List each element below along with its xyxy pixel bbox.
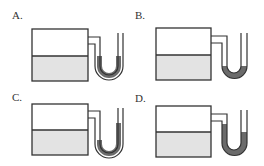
manometer-liquid-b: [222, 66, 247, 79]
water-a: [32, 56, 88, 81]
water-c: [32, 130, 88, 155]
pipe-a: [88, 37, 100, 53]
pipe-d: [211, 114, 227, 124]
option-b-apparatus: [156, 28, 247, 80]
water-d: [156, 132, 211, 157]
water-b: [156, 55, 211, 80]
pipe-c: [88, 111, 100, 140]
option-c-apparatus: [32, 104, 123, 158]
manometer-liquid-d: [222, 124, 247, 156]
option-a-apparatus: [32, 29, 123, 81]
pipe-b: [211, 36, 227, 52]
diagram-canvas: [0, 0, 264, 166]
option-d-apparatus: [156, 106, 247, 157]
